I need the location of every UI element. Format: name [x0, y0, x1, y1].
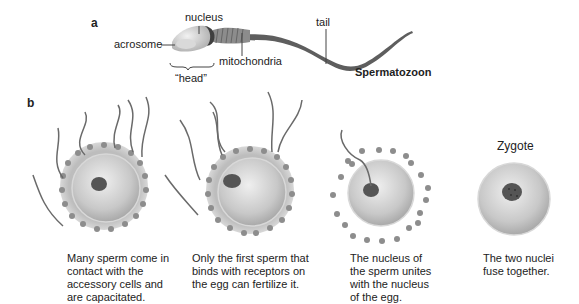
caption-zygote: The two nuclei fuse together. [483, 252, 563, 278]
label-tail: tail [316, 16, 330, 28]
label-mitochondria: mitochondria [219, 55, 282, 67]
panel-b-letter: b [27, 96, 34, 110]
zygote-cell [478, 163, 550, 235]
egg-stage-1 [33, 97, 149, 232]
egg-stage-2 [165, 92, 302, 236]
egg-stage-3 [330, 130, 431, 244]
caption-stage-2: Only the first sperm that binds with rec… [192, 252, 322, 291]
spermatozoon-title: Spermatozoon [355, 66, 431, 78]
label-head: “head” [175, 72, 207, 84]
spermatozoon-illustration [161, 26, 413, 71]
label-acrosome: acrosome [114, 38, 162, 50]
zygote-title: Zygote [497, 139, 534, 153]
caption-stage-3: The nucleus of the sperm unites with the… [350, 252, 440, 304]
label-nucleus: nucleus [185, 11, 223, 23]
caption-stage-1: Many sperm come in contact with the acce… [67, 252, 177, 304]
